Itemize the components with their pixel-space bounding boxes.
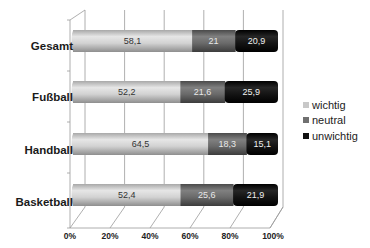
data-label: 25,6 — [198, 190, 216, 200]
floor-right-edge — [270, 207, 283, 228]
legend-item-neutral: neutral — [303, 113, 358, 129]
data-label: 18,3 — [218, 139, 236, 149]
floor-gridline — [150, 207, 164, 228]
legend-label: unwichtig — [312, 130, 358, 142]
category-label-basketball: Basketball — [15, 196, 73, 208]
bar-handball — [72, 133, 279, 155]
x-tick-label: 0% — [64, 231, 76, 241]
category-label-gesamt: Gesamt — [31, 40, 73, 52]
legend-item-wichtig: wichtig — [303, 97, 358, 113]
data-label: 20,9 — [248, 36, 266, 46]
x-tick-label: 60% — [181, 231, 198, 241]
legend-item-unwichtig: unwichtig — [303, 128, 358, 144]
side-wall-top — [70, 10, 85, 20]
floor-gridline — [230, 207, 243, 228]
data-label: 52,4 — [118, 190, 136, 200]
category-label-fußball: Fußball — [32, 91, 73, 103]
data-label: 58,1 — [124, 36, 142, 46]
x-tick-label: 80% — [221, 231, 238, 241]
legend-swatch-icon — [303, 133, 309, 139]
x-tick-label: 40% — [141, 231, 158, 241]
data-label: 25,9 — [243, 87, 261, 97]
category-label-handball: Handball — [24, 144, 73, 156]
data-label: 52,2 — [118, 87, 136, 97]
chart-legend: wichtig neutral unwichtig — [303, 97, 358, 144]
data-label: 21,9 — [247, 190, 265, 200]
legend-label: wichtig — [312, 99, 346, 111]
x-tick-label: 20% — [101, 231, 118, 241]
data-label: 15,1 — [253, 139, 271, 149]
data-label: 21,6 — [194, 87, 212, 97]
data-label: 21 — [209, 36, 219, 46]
floor-gridline — [190, 207, 204, 228]
floor-gridline — [70, 207, 85, 228]
legend-swatch-icon — [303, 102, 309, 108]
floor-gridline — [110, 207, 125, 228]
data-label: 64,5 — [132, 139, 150, 149]
legend-swatch-icon — [303, 117, 309, 123]
legend-label: neutral — [312, 114, 346, 126]
x-tick-label: 100% — [262, 231, 284, 241]
